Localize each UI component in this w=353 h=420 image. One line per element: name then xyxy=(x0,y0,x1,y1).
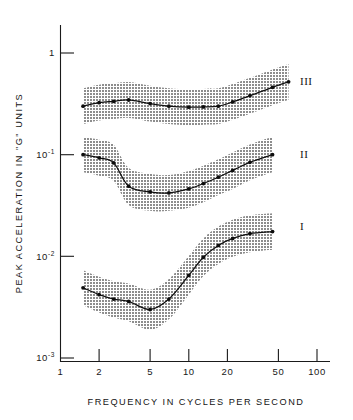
marker-I xyxy=(148,308,152,312)
series-label-II: II xyxy=(300,148,308,160)
x-tick-label: 2 xyxy=(96,366,102,377)
band-III xyxy=(83,64,288,125)
marker-II xyxy=(167,191,171,195)
marker-II xyxy=(148,190,152,194)
y-tick-label: 10-1 xyxy=(36,148,55,160)
marker-II xyxy=(187,187,191,191)
marker-II xyxy=(127,184,131,188)
x-axis-ticks: 125102050100 xyxy=(58,349,326,377)
x-tick-label: 100 xyxy=(308,366,326,377)
marker-I xyxy=(97,293,101,297)
chart-svg: 110-110-210-3 125102050100 IIIIII FREQUE… xyxy=(0,0,353,420)
marker-I xyxy=(127,300,131,304)
series-label-III: III xyxy=(300,75,313,87)
chart-figure: 110-110-210-3 125102050100 IIIIII FREQUE… xyxy=(0,0,353,420)
series-label-I: I xyxy=(300,220,304,232)
marker-II xyxy=(216,175,220,179)
x-axis-title: FREQUENCY IN CYCLES PER SECOND xyxy=(88,397,305,407)
marker-III xyxy=(148,102,152,106)
series-labels: IIIIII xyxy=(300,75,313,232)
marker-III xyxy=(167,104,171,108)
y-axis-title: PEAK ACCELERATION IN "G" UNITS xyxy=(14,93,24,293)
x-tick-label: 50 xyxy=(273,366,285,377)
marker-I xyxy=(187,273,191,277)
marker-III xyxy=(231,100,235,104)
band-II xyxy=(83,137,272,212)
marker-II xyxy=(248,160,252,164)
x-tick-label: 10 xyxy=(183,366,195,377)
marker-I xyxy=(231,237,235,241)
y-tick-label: 10-3 xyxy=(36,351,55,363)
marker-II xyxy=(201,182,205,186)
marker-III xyxy=(112,99,116,103)
marker-I xyxy=(81,286,85,290)
marker-II xyxy=(112,161,116,165)
y-tick-label: 1 xyxy=(49,47,55,58)
uncertainty-bands xyxy=(83,64,288,330)
marker-III xyxy=(127,98,131,102)
marker-III xyxy=(287,80,291,84)
marker-II xyxy=(81,153,85,157)
marker-I xyxy=(167,297,171,301)
marker-II xyxy=(231,169,235,173)
marker-III xyxy=(187,105,191,109)
y-axis-ticks: 110-110-210-3 xyxy=(36,47,74,363)
marker-III xyxy=(81,104,85,108)
marker-III xyxy=(201,105,205,109)
x-tick-label: 5 xyxy=(147,366,153,377)
marker-III xyxy=(216,104,220,108)
marker-I xyxy=(216,244,220,248)
marker-II xyxy=(97,156,101,160)
marker-I xyxy=(248,232,252,236)
x-tick-label: 1 xyxy=(58,366,64,377)
marker-I xyxy=(271,230,275,234)
y-tick-label: 10-2 xyxy=(36,250,55,262)
marker-III xyxy=(271,85,275,89)
marker-I xyxy=(112,297,116,301)
marker-I xyxy=(201,255,205,259)
marker-III xyxy=(248,94,252,98)
marker-III xyxy=(97,101,101,105)
band-I xyxy=(83,213,272,329)
marker-II xyxy=(271,153,275,157)
x-tick-label: 20 xyxy=(222,366,234,377)
